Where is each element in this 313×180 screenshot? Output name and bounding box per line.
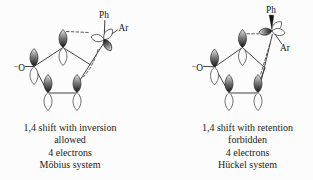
- migrating-carbon-orbital: [90, 27, 115, 53]
- hueckel-structure: ⁻O Ph Ar: [191, 5, 290, 111]
- caption-line-allowed: allowed: [14, 134, 126, 146]
- moebius-structure: ⁻O Ph Ar: [13, 10, 129, 111]
- p-orbital-c2: [59, 30, 67, 66]
- ring-bond-c3-c4: [80, 65, 90, 81]
- caption-line-shift: 1,4 shift with retention: [191, 122, 304, 134]
- aryl-label: Ar: [119, 23, 130, 33]
- forming-bond-front-lobe: [260, 44, 270, 76]
- caption-line-electrons: 4 electrons: [191, 147, 304, 159]
- caption-line-shift: 1,4 shift with inversion: [14, 122, 126, 134]
- caption-line-system: Möbius system: [14, 159, 126, 171]
- p-orbital-c2: [239, 30, 247, 66]
- sp3-lobe-front-left: [90, 33, 104, 43]
- forming-bond-top: [67, 32, 90, 33]
- figure-canvas: ⁻O Ph Ar: [0, 0, 313, 180]
- phenyl-label: Ph: [99, 10, 109, 20]
- sp3-lobe-front: [259, 28, 273, 36]
- oxide-label: ⁻O: [13, 63, 25, 73]
- phenyl-label: Ph: [266, 5, 276, 15]
- oxide-label: ⁻O: [191, 63, 203, 73]
- caption-line-system: Hückel system: [191, 159, 304, 171]
- p-orbital-c4: [73, 75, 81, 111]
- p-orbital-c5: [44, 75, 52, 111]
- caption-line-forbidden: forbidden: [191, 134, 304, 146]
- sigma-bond-migrating: [262, 35, 273, 80]
- p-orbital-c4: [254, 75, 262, 111]
- hueckel-caption: 1,4 shift with retention forbidden 4 ele…: [191, 122, 304, 172]
- aryl-label: Ar: [280, 43, 291, 53]
- moebius-caption: 1,4 shift with inversion allowed 4 elect…: [14, 122, 126, 172]
- p-orbital-c5: [225, 75, 233, 111]
- caption-line-electrons: 4 electrons: [14, 147, 126, 159]
- oxide-bond: [204, 66, 215, 67]
